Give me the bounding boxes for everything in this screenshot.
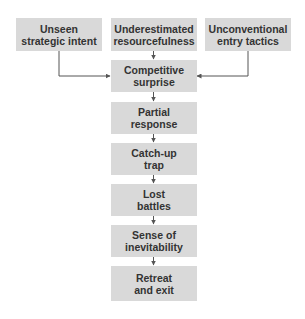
node-label: response	[131, 118, 178, 130]
node-unseen-strategic-intent: Unseenstrategic intent	[16, 18, 102, 51]
node-lost-battles: Lostbattles	[111, 184, 197, 216]
node-label: and exit	[134, 284, 174, 296]
node-label: strategic intent	[21, 35, 96, 47]
node-sense-of-inevitability: Sense ofinevitability	[111, 225, 197, 257]
node-underestimated-resourcefulness: Underestimatedresourcefulness	[111, 18, 197, 51]
node-label: entry tactics	[209, 35, 288, 47]
node-label: Retreat	[134, 272, 174, 284]
node-label: Competitive	[124, 64, 184, 76]
node-competitive-surprise: Competitivesurprise	[111, 60, 197, 92]
node-label: surprise	[124, 76, 184, 88]
node-unconventional-entry-tactics: Unconventionalentry tactics	[205, 18, 291, 51]
node-label: Sense of	[125, 229, 183, 241]
node-label: battles	[137, 200, 171, 212]
node-label: Unseen	[21, 23, 96, 35]
node-partial-response: Partialresponse	[111, 102, 197, 134]
node-label: Unconventional	[209, 23, 288, 35]
node-retreat-and-exit: Retreatand exit	[111, 266, 197, 301]
node-label: Lost	[137, 188, 171, 200]
node-label: Partial	[131, 106, 178, 118]
node-label: Underestimated	[113, 23, 194, 35]
arrow-unconventional-to-surprise	[197, 51, 248, 76]
node-catch-up-trap: Catch-uptrap	[111, 143, 197, 175]
node-label: inevitability	[125, 241, 183, 253]
node-label: Catch-up	[131, 147, 177, 159]
arrow-unseen-to-surprise	[59, 51, 110, 76]
node-label: trap	[131, 159, 177, 171]
node-label: resourcefulness	[113, 35, 194, 47]
